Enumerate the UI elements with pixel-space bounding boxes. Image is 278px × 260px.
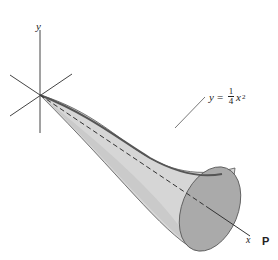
eq-variable: x xyxy=(236,91,241,103)
y-axis-label: y xyxy=(36,20,41,32)
horn-diagram xyxy=(0,0,278,260)
eq-exponent: 2 xyxy=(242,93,246,101)
x-axis-label: x xyxy=(246,234,250,245)
x-axis-back xyxy=(10,75,40,95)
eq-numerator: 1 xyxy=(229,87,234,96)
curve-equation: y = 1 4 x 2 xyxy=(209,87,246,106)
label-leader xyxy=(175,97,205,128)
eq-lhs: y xyxy=(209,91,214,103)
eq-equals: = xyxy=(217,91,223,103)
eq-denominator: 4 xyxy=(229,97,234,106)
eq-fraction: 1 4 xyxy=(228,87,234,106)
cropped-figure-label: P xyxy=(262,235,269,247)
